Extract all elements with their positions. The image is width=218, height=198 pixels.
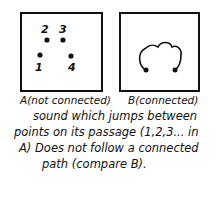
panel-b-caption: B(connected) (128, 95, 198, 106)
path-end-point (173, 68, 178, 73)
point-3 (60, 37, 65, 42)
description-line-4: path (compare B). (42, 159, 147, 171)
panel-b-connected-path (140, 43, 181, 71)
panel-a-caption: A(not connected) (20, 95, 111, 106)
description-line-1: sound which jumps between (33, 111, 197, 123)
point-label-4: 4 (68, 62, 76, 73)
point-label-2: 2 (41, 24, 49, 35)
description-line-2: points on its passage (1,2,3... in (14, 127, 199, 139)
point-label-3: 3 (59, 24, 67, 35)
panel-a-points (37, 37, 73, 58)
point-2 (44, 37, 49, 42)
path-start-point (144, 68, 149, 73)
point-4 (68, 53, 73, 58)
point-label-1: 1 (35, 62, 43, 73)
description-line-3: A) Does not follow a connected (19, 143, 199, 155)
point-1 (37, 52, 42, 57)
